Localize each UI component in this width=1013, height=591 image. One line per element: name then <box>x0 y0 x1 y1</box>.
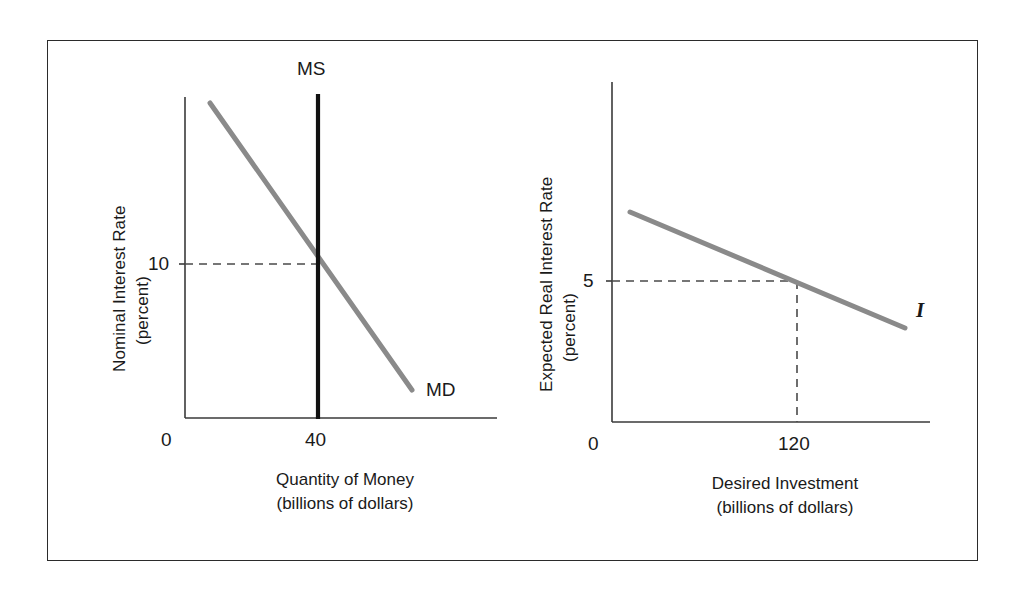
right-xlabel-line1: Desired Investment <box>640 472 930 496</box>
right-xlabel-line2: (billions of dollars) <box>640 496 930 520</box>
investment-demand-label: I <box>916 298 924 323</box>
right-ylabel-line1: Expected Real Interest Rate <box>537 177 557 392</box>
right-xlabel-block: Desired Investment (billions of dollars) <box>640 472 930 520</box>
investment-demand-curve <box>630 212 905 328</box>
right-xtick-label-120: 120 <box>778 433 810 455</box>
figure-root: Nominal Interest Rate (percent) 10 0 40 … <box>0 0 1013 591</box>
right-xtick-label-0: 0 <box>588 433 599 455</box>
right-ytick-label-5: 5 <box>583 270 594 292</box>
right-ylabel-line2: (percent) <box>560 293 580 362</box>
